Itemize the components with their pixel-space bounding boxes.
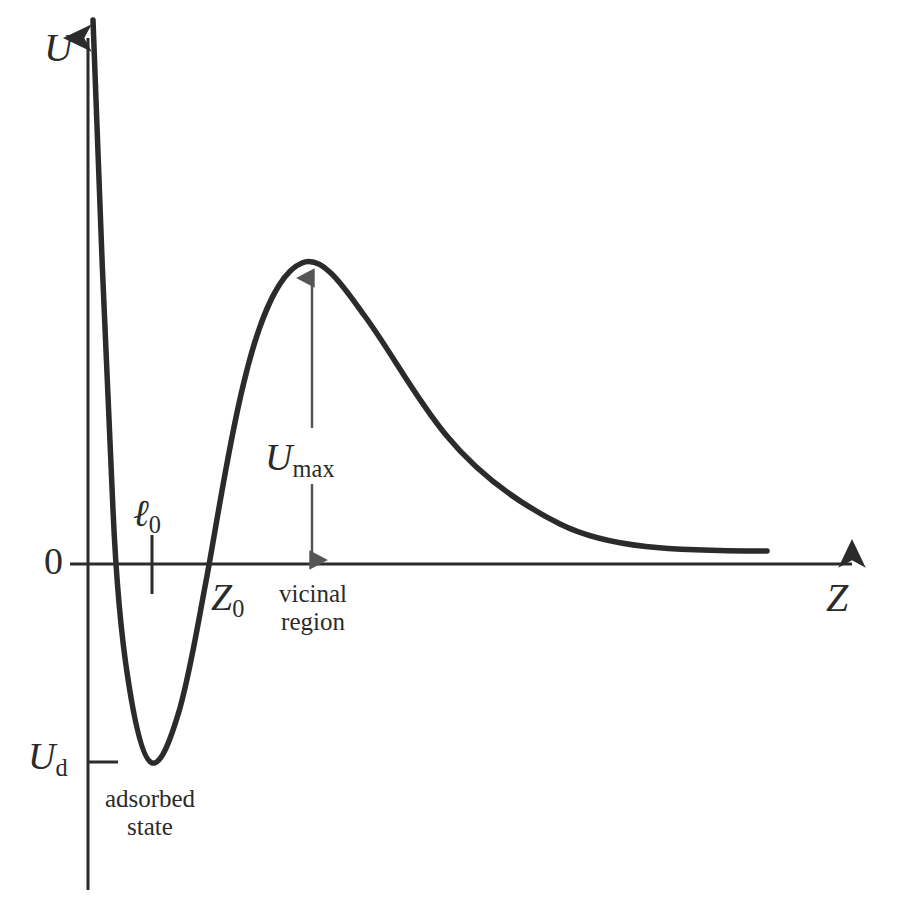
potential-energy-plot [0, 0, 898, 915]
adsorbed-state-line-1: adsorbed [80, 785, 220, 813]
barrier-height-subscript: max [292, 455, 334, 482]
well-depth-label: Ud [28, 737, 68, 780]
barrier-height-symbol: U [265, 436, 292, 478]
ell-zero-label: ℓ0 [133, 494, 161, 537]
figure-container: U Z 0 Ud ℓ0 Z0 Umax adsorbed state vicin… [0, 0, 898, 915]
vicinal-region-annotation: vicinal region [250, 580, 376, 636]
x-axis-label: Z [826, 578, 848, 618]
z-zero-symbol: Z [211, 576, 232, 618]
z-zero-subscript: 0 [232, 595, 244, 622]
adsorbed-state-line-2: state [80, 813, 220, 841]
vicinal-region-line-1: vicinal [250, 580, 376, 608]
barrier-height-label: Umax [258, 436, 342, 483]
adsorbed-state-annotation: adsorbed state [80, 785, 220, 841]
origin-tick-label: 0 [44, 542, 63, 580]
z-zero-label: Z0 [211, 578, 245, 621]
potential-energy-curve [93, 20, 767, 763]
ell-zero-symbol: ℓ [133, 491, 149, 535]
ell-zero-subscript: 0 [149, 511, 161, 538]
well-depth-symbol: U [28, 735, 55, 777]
vicinal-region-line-2: region [250, 608, 376, 636]
y-axis-label: U [44, 28, 73, 68]
well-depth-subscript: d [55, 754, 67, 781]
